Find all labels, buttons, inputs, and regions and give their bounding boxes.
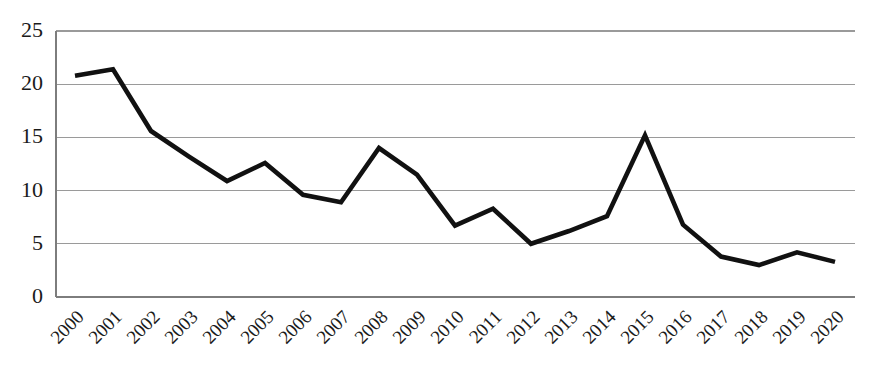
y-tick-label: 5	[32, 230, 43, 255]
chart-canvas: 0510152025 20002001200220032004200520062…	[0, 0, 872, 385]
line-chart: 0510152025 20002001200220032004200520062…	[0, 0, 872, 385]
y-tick-label: 20	[21, 70, 43, 95]
y-tick-label: 15	[21, 123, 43, 148]
y-tick-label: 25	[21, 17, 43, 42]
y-tick-label: 10	[21, 177, 43, 202]
y-tick-label: 0	[32, 283, 43, 308]
